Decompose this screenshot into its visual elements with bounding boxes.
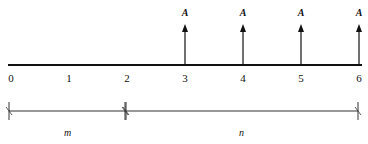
period-label: 0 <box>8 72 14 84</box>
cash-flow-label: A <box>181 7 189 18</box>
arrow-head-icon <box>182 24 188 32</box>
cash-flow-label: A <box>297 7 305 18</box>
segment-label: n <box>239 127 244 138</box>
period-label: 5 <box>298 72 304 84</box>
period-label: 1 <box>66 72 72 84</box>
arrow-head-icon <box>356 24 362 32</box>
cash-flow-label: A <box>239 7 247 18</box>
period-label: 4 <box>240 72 246 84</box>
arrow-head-icon <box>298 24 304 32</box>
cash-flow-diagram: 0123456 AAAA mn <box>0 0 368 144</box>
period-label: 3 <box>182 72 188 84</box>
cash-flow-label: A <box>355 7 363 18</box>
period-label: 6 <box>356 72 362 84</box>
period-label: 2 <box>124 72 130 84</box>
segment-label: m <box>64 127 71 138</box>
arrow-head-icon <box>240 24 246 32</box>
